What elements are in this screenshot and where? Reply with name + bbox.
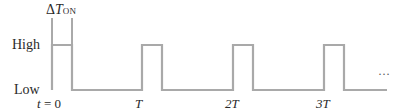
- square-wave: [52, 45, 387, 90]
- time-zero-value: = 0: [41, 96, 61, 111]
- on-subscript: ON: [63, 6, 77, 16]
- period-symbol: T: [55, 2, 63, 17]
- low-level-label: Low: [14, 83, 40, 97]
- time-label-zero: t = 0: [37, 97, 61, 111]
- pulse-width-label: ΔTON: [46, 3, 76, 18]
- continuation-ellipsis: …: [378, 64, 390, 78]
- time-label-T: T: [135, 97, 142, 111]
- delta-symbol: Δ: [46, 2, 55, 17]
- time-label-3T: 3T: [316, 97, 330, 111]
- high-level-label: High: [12, 38, 40, 52]
- time-label-2T: 2T: [225, 97, 239, 111]
